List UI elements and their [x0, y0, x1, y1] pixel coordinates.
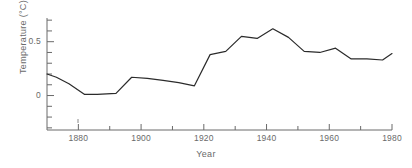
temperature-line-chart: Temperature (°C) Year 00.5 1880190019201…: [0, 0, 412, 168]
x-tick-label: 1980: [372, 133, 412, 143]
x-tick-label: 1880: [58, 133, 98, 143]
x-axis-title: Year: [0, 149, 412, 159]
x-tick-label: 1960: [309, 133, 349, 143]
y-tick-label: 0: [11, 90, 41, 100]
x-tick-label: 1920: [184, 133, 224, 143]
y-tick-label: 0.5: [11, 36, 41, 46]
x-axis-ticks: [78, 124, 392, 130]
x-tick-label: 1900: [121, 133, 161, 143]
x-tick-label: 1940: [247, 133, 287, 143]
axis-lines: [47, 18, 392, 130]
data-series-line: [47, 29, 392, 95]
